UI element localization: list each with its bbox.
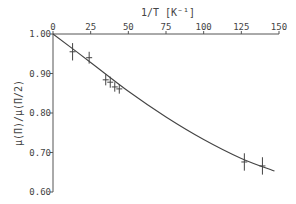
- y-tick-label: 0.90: [29, 69, 51, 79]
- x-axis-label: 1/T [K⁻¹]: [141, 7, 195, 18]
- axes: 02550751001251501.000.900.800.700.60: [29, 22, 287, 197]
- y-tick-label: 0.60: [29, 187, 51, 197]
- data-point: [112, 82, 118, 91]
- fit-line: [53, 34, 274, 171]
- data-point: [107, 77, 113, 88]
- x-tick-label: 50: [123, 22, 134, 32]
- chart: 02550751001251501.000.900.800.700.60 1/T…: [0, 0, 296, 204]
- data-points: [70, 43, 266, 175]
- x-tick-label: 75: [161, 22, 172, 32]
- y-tick-label: 0.70: [29, 148, 51, 158]
- data-point: [70, 43, 76, 60]
- y-axis-label: μ(Π)/μ(Π/2): [13, 80, 24, 146]
- data-point: [241, 153, 247, 170]
- x-tick-label: 125: [233, 22, 249, 32]
- fit-curve: [53, 34, 274, 171]
- x-tick-label: 150: [271, 22, 287, 32]
- x-tick-label: 0: [50, 22, 55, 32]
- y-tick-label: 0.80: [29, 108, 51, 118]
- x-tick-label: 100: [196, 22, 212, 32]
- x-tick-label: 25: [85, 22, 96, 32]
- data-point: [259, 157, 265, 174]
- y-tick-label: 1.00: [29, 29, 51, 39]
- data-point: [86, 52, 92, 64]
